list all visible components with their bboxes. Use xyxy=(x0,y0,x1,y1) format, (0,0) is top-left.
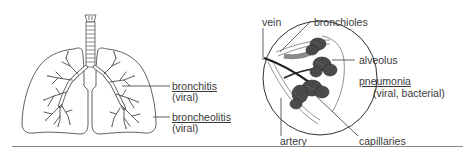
label-vein: vein xyxy=(262,17,281,28)
bottom-divider xyxy=(12,146,463,147)
trachea xyxy=(85,15,96,67)
label-pneumonia: pneumonia xyxy=(359,76,411,87)
label-alveolus: alveolus xyxy=(359,55,398,66)
left-lung-outline xyxy=(22,48,88,134)
label-broncheolitis-cause: (viral) xyxy=(172,123,198,134)
lung-leader-lines xyxy=(122,86,170,117)
label-pneumonia-cause: (viral, bacterial) xyxy=(373,88,445,99)
label-bronchioles: bronchioles xyxy=(314,17,368,28)
label-bronchitis-cause: (viral) xyxy=(172,92,198,103)
